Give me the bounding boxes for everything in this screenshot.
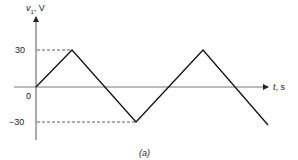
- chart-canvas: [0, 0, 298, 160]
- figure-caption: (a): [139, 149, 150, 158]
- x-axis-label: t, s: [273, 83, 285, 92]
- y-axis-label: v1, V: [26, 4, 45, 15]
- tick-label-0: 0: [26, 92, 31, 101]
- tick-label-30: 30: [15, 46, 25, 55]
- tick-label-minus-30: −30: [9, 118, 24, 127]
